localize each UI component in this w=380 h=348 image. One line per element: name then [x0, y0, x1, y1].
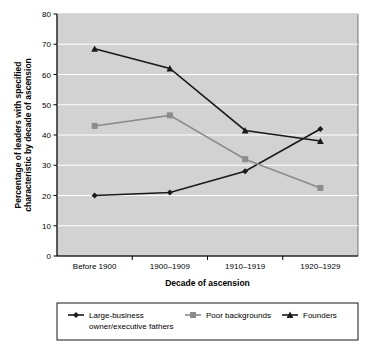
y-axis-title-line1: Percentage of leaders with specified	[13, 62, 23, 209]
data-point	[317, 185, 323, 191]
y-tick-label: 20	[42, 192, 51, 201]
y-tick-label: 30	[42, 161, 51, 170]
line-chart: 01020304050607080Before 19001900–1909191…	[0, 0, 380, 348]
x-axis-ticks: Before 19001900–19091910–19191920–1929	[73, 256, 341, 271]
legend-label-line2: owner/executive fathers	[89, 322, 174, 331]
legend-marker	[190, 312, 196, 318]
x-tick-label: Before 1900	[73, 262, 117, 271]
legend: Large-businessowner/executive fathersPoo…	[57, 303, 358, 340]
y-tick-label: 40	[42, 131, 51, 140]
y-tick-label: 60	[42, 71, 51, 80]
legend-label: Founders	[303, 311, 337, 320]
x-tick-label: 1910–1919	[225, 262, 266, 271]
data-point	[167, 112, 173, 118]
y-axis-title-line2: characteristic by decade of ascension	[23, 58, 33, 212]
legend-label: Large-business	[89, 311, 144, 320]
data-point	[92, 123, 98, 129]
x-tick-label: 1920–1929	[300, 262, 341, 271]
y-axis-ticks: 01020304050607080	[42, 10, 57, 261]
y-tick-label: 0	[47, 252, 52, 261]
y-tick-label: 80	[42, 10, 51, 19]
y-tick-label: 50	[42, 101, 51, 110]
data-point	[242, 156, 248, 162]
y-tick-label: 10	[42, 222, 51, 231]
x-tick-label: 1900–1909	[150, 262, 191, 271]
x-axis-title: Decade of ascension	[165, 278, 250, 288]
chart-figure: 01020304050607080Before 19001900–1909191…	[0, 0, 380, 348]
y-tick-label: 70	[42, 40, 51, 49]
legend-label: Poor backgrounds	[206, 311, 271, 320]
